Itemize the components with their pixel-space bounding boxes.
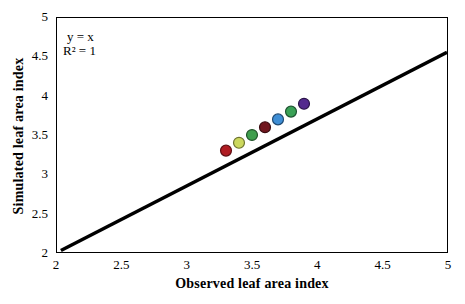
y-tick-label: 2	[0, 245, 48, 261]
data-point	[247, 130, 258, 141]
y-tick-label: 4.5	[0, 48, 48, 64]
y-tick-label: 2.5	[0, 206, 48, 222]
scatter-chart-figure: Simulated leaf area index y = x R² = 1 2…	[0, 0, 465, 304]
x-tick-label: 5	[445, 257, 452, 273]
data-point	[260, 122, 271, 133]
x-tick-label: 3	[183, 257, 190, 273]
y-tick-label: 3	[0, 166, 48, 182]
y-tick-label: 3.5	[0, 127, 48, 143]
x-tick-label: 3.5	[244, 257, 260, 273]
data-point	[299, 98, 310, 109]
x-axis-title: Observed leaf area index	[56, 276, 448, 292]
x-tick-label: 2.5	[113, 257, 129, 273]
data-point	[273, 114, 284, 125]
plot-area: y = x R² = 1	[56, 17, 448, 253]
data-point	[221, 145, 232, 156]
data-point	[286, 106, 297, 117]
equation-label: y = x	[67, 30, 96, 44]
r-squared-label: R² = 1	[63, 44, 96, 58]
y-tick-label: 4	[0, 88, 48, 104]
x-tick-label: 2	[53, 257, 60, 273]
equation-annotation: y = x R² = 1	[63, 30, 96, 58]
y-tick-label: 5	[0, 9, 48, 25]
identity-line	[61, 52, 447, 250]
data-point	[234, 137, 245, 148]
x-tick-label: 4.5	[375, 257, 391, 273]
x-tick-label: 4	[314, 257, 321, 273]
plot-canvas	[57, 18, 447, 252]
